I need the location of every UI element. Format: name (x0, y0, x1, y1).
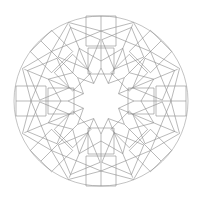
outer-chord (151, 52, 172, 102)
inner-chord-down (129, 123, 153, 129)
inner-chord-up (141, 101, 154, 123)
radial-spoke-half (108, 119, 132, 178)
mandala-geometry (14, 16, 188, 186)
inner-chord-down (73, 129, 79, 153)
outer-chord-down (22, 101, 31, 134)
outer-chord-up (171, 101, 180, 134)
radial-spoke-half (108, 24, 132, 83)
inner-chord-up (79, 141, 101, 154)
outer-chord-down (171, 68, 180, 101)
outer-chord-up (151, 52, 180, 69)
radial-spoke-half (24, 69, 83, 93)
outer-chord-up (22, 134, 51, 151)
inner-chord-up (48, 79, 61, 101)
outer-chord-up (101, 22, 134, 31)
outer-chord-down (68, 22, 101, 31)
inner-chord-up (73, 48, 79, 72)
outer-chord-up (134, 151, 151, 180)
inner-chord-up (129, 73, 153, 79)
radial-spoke-half (69, 119, 93, 178)
outer-chord-up (68, 171, 101, 180)
outer-chord (101, 31, 151, 52)
radial-spoke (124, 124, 161, 161)
outer-chord (31, 101, 52, 151)
inner-chord-up (123, 129, 129, 153)
radial-spoke-half (119, 108, 178, 132)
outer-chord (52, 151, 102, 172)
outer-chord-down (22, 52, 51, 69)
radial-spoke-half (119, 69, 178, 93)
radial-spoke-half (24, 108, 83, 132)
outer-chord (31, 52, 52, 102)
inner-chord-down (79, 48, 101, 61)
center-star-void (68, 68, 134, 134)
outer-chord-down (52, 151, 69, 180)
inner-chord-up (101, 48, 123, 61)
page-root (0, 0, 202, 200)
radial-spoke (41, 124, 78, 161)
outer-chord-up (52, 22, 69, 51)
outer-chord-down (134, 22, 151, 51)
outer-chord (101, 151, 151, 172)
mandala-figure (0, 0, 202, 200)
outer-chord (151, 101, 172, 151)
inner-chord-down (48, 73, 72, 79)
inner-chord-down (48, 101, 61, 123)
radial-spoke (41, 41, 78, 78)
radial-spoke-half (69, 24, 93, 83)
inner-chord-down (141, 79, 154, 101)
inner-chord-down (123, 48, 129, 72)
outer-chord-down (151, 134, 180, 151)
inner-chord-up (48, 123, 72, 129)
inner-chord-down (101, 141, 123, 154)
outer-chord-down (101, 171, 134, 180)
radial-spoke (124, 41, 161, 78)
mandala-svg (0, 0, 202, 200)
outer-chord-up (22, 68, 31, 101)
outer-chord (52, 31, 102, 52)
